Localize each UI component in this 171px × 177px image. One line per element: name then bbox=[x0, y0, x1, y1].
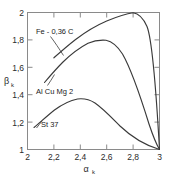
series-label-alcumg2: Al Cu Mg 2 bbox=[36, 87, 73, 96]
chart-figure: 2 1,8 1,6 1,4 1,2 1 2 2,2 2,4 2,6 2,8 3 … bbox=[0, 0, 171, 177]
series-label-fe-036c: Fe - 0,36 C bbox=[36, 27, 74, 36]
y-axis-title-symbol: β bbox=[4, 76, 9, 86]
y-tick-label-2: 2 bbox=[19, 8, 24, 18]
y-tick-label-1: 1 bbox=[19, 145, 24, 155]
x-tick-label-2-2: 2,2 bbox=[48, 152, 60, 162]
x-tick-label-3: 3 bbox=[157, 152, 162, 162]
notch-sensitivity-chart: 2 1,8 1,6 1,4 1,2 1 2 2,2 2,4 2,6 2,8 3 … bbox=[0, 0, 171, 177]
x-tick-label-2-8: 2,8 bbox=[127, 152, 139, 162]
chart-background bbox=[0, 0, 171, 177]
y-tick-label-1-2: 1,2 bbox=[12, 118, 24, 128]
x-axis-title-symbol: α bbox=[83, 164, 88, 174]
x-tick-label-2-4: 2,4 bbox=[74, 152, 86, 162]
y-tick-label-1-6: 1,6 bbox=[12, 63, 24, 73]
y-tick-label-1-4: 1,4 bbox=[12, 90, 24, 100]
x-tick-label-2-6: 2,6 bbox=[101, 152, 113, 162]
y-tick-label-1-8: 1,8 bbox=[12, 35, 24, 45]
x-tick-label-2: 2 bbox=[25, 152, 30, 162]
series-label-st37: St 37 bbox=[41, 120, 59, 129]
